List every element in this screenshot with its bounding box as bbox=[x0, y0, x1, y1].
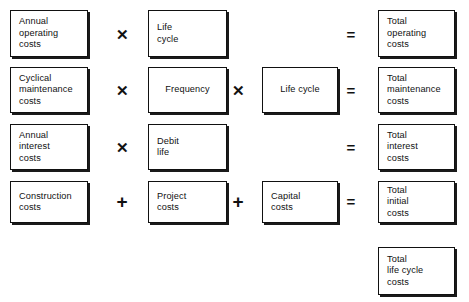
operator-plus-row4-second: + bbox=[228, 192, 248, 211]
box-capital-costs: Capital costs bbox=[262, 181, 338, 223]
box-label: Project costs bbox=[149, 191, 190, 214]
box-annual-interest-costs: Annual interest costs bbox=[10, 124, 88, 170]
operator-equals-row2: = bbox=[341, 83, 361, 98]
box-label: Annual operating costs bbox=[11, 16, 62, 50]
box-label: Total life cycle costs bbox=[379, 254, 427, 288]
box-label: Total initial costs bbox=[379, 185, 413, 219]
operator-times-row1: ✕ bbox=[112, 27, 132, 42]
box-label: Capital costs bbox=[263, 191, 304, 214]
operator-equals-row4: = bbox=[341, 194, 361, 209]
box-label: Total interest costs bbox=[379, 130, 422, 164]
operator-equals-row3: = bbox=[341, 140, 361, 155]
box-label: Total maintenance costs bbox=[379, 73, 445, 107]
box-total-life-cycle-costs: Total life cycle costs bbox=[378, 247, 455, 295]
box-label: Total operating costs bbox=[379, 16, 430, 50]
box-label: Life cycle bbox=[276, 84, 323, 95]
operator-equals-row1: = bbox=[341, 27, 361, 42]
box-project-costs: Project costs bbox=[148, 181, 227, 223]
box-total-operating-costs: Total operating costs bbox=[378, 10, 455, 57]
operator-times-row2-first: ✕ bbox=[112, 83, 132, 98]
box-label: Debit life bbox=[149, 136, 183, 159]
box-debit-life: Debit life bbox=[148, 124, 227, 170]
box-life-cycle-row1: Life cycle bbox=[148, 10, 227, 57]
box-label: Frequency bbox=[161, 84, 213, 95]
operator-times-row2-second: ✕ bbox=[228, 83, 248, 98]
box-label: Annual interest costs bbox=[11, 130, 54, 164]
operator-times-row3: ✕ bbox=[112, 140, 132, 155]
box-construction-costs: Construction costs bbox=[10, 181, 88, 223]
diagram-canvas: Annual operating costs ✕ Life cycle = To… bbox=[0, 0, 469, 302]
box-life-cycle-row2: Life cycle bbox=[262, 67, 338, 113]
box-total-interest-costs: Total interest costs bbox=[378, 124, 455, 170]
box-frequency: Frequency bbox=[148, 67, 227, 113]
box-total-maintenance-costs: Total maintenance costs bbox=[378, 67, 455, 113]
box-annual-operating-costs: Annual operating costs bbox=[10, 10, 88, 57]
box-label: Cyclical maintenance costs bbox=[11, 73, 77, 107]
box-cyclical-maintenance-costs: Cyclical maintenance costs bbox=[10, 67, 88, 113]
box-label: Life cycle bbox=[149, 22, 182, 45]
box-label: Construction costs bbox=[11, 191, 76, 214]
box-total-initial-costs: Total initial costs bbox=[378, 181, 455, 223]
operator-plus-row4-first: + bbox=[112, 192, 132, 211]
